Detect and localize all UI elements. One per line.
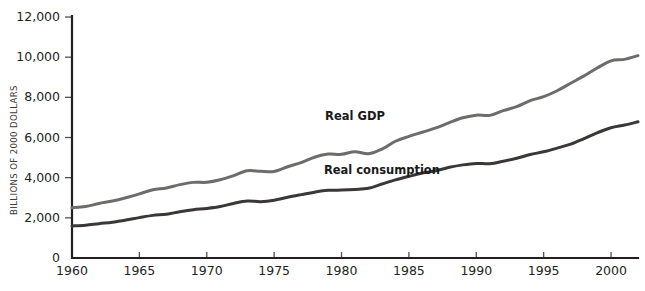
series-line-real-gdp [72, 56, 638, 208]
x-tick-label: 1960 [56, 263, 88, 278]
x-tick-label: 1975 [258, 263, 290, 278]
series-label-real-consumption: Real consumption [324, 163, 440, 177]
y-tick-label: 12,000 [16, 9, 60, 24]
y-axis-title: BILLIONS OF 2000 DOLLARS [9, 85, 19, 215]
axis-lines [72, 16, 638, 258]
x-tick-label: 1985 [393, 263, 425, 278]
x-axis-ticks: 196019651970197519801985199019952000 [56, 252, 627, 278]
x-tick-label: 2000 [595, 263, 627, 278]
x-tick-label: 1965 [123, 263, 155, 278]
y-tick-label: 6,000 [24, 130, 60, 145]
y-tick-label: 2,000 [24, 210, 60, 225]
chart-figure: BILLIONS OF 2000 DOLLARS 02,0004,0006,00… [0, 0, 645, 291]
series-annotations-group: Real GDPReal consumption [324, 109, 440, 176]
y-tick-label: 4,000 [24, 170, 60, 185]
x-tick-label: 1970 [191, 263, 223, 278]
x-tick-label: 1990 [460, 263, 492, 278]
x-tick-label: 1995 [528, 263, 560, 278]
y-tick-label: 10,000 [16, 49, 60, 64]
y-axis-ticks: 02,0004,0006,0008,00010,00012,000 [16, 9, 72, 265]
data-series-group [72, 56, 638, 226]
series-label-real-gdp: Real GDP [325, 109, 385, 123]
y-axis-title-label: BILLIONS OF 2000 DOLLARS [9, 85, 19, 215]
line-chart: BILLIONS OF 2000 DOLLARS 02,0004,0006,00… [0, 0, 645, 291]
x-tick-label: 1980 [326, 263, 358, 278]
y-tick-label: 8,000 [24, 89, 60, 104]
